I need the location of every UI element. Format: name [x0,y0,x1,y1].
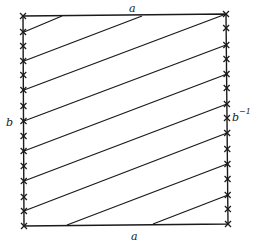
diagonal-line [24,104,227,181]
diagonal-line [24,16,142,61]
diagonal-line [67,164,227,225]
diagonal-line [24,14,226,90]
bottom-edge-label: a [131,230,138,243]
right-edge-label: b [232,111,239,124]
diagonal-line [24,74,227,151]
square-border [23,14,228,226]
diagonal-line [24,133,227,211]
top-edge-label: a [129,2,136,15]
diagonal-line [153,195,228,224]
square-outline [23,14,228,226]
diagonal-line [24,16,62,32]
diagonal-lines [24,14,228,225]
torus-identification-diagram: a a b b −1 [0,0,262,252]
diagonal-line [24,45,226,121]
right-edge-inverse-superscript: −1 [239,107,251,116]
left-edge-label: b [6,116,13,129]
edge-cross-marks [20,11,231,229]
